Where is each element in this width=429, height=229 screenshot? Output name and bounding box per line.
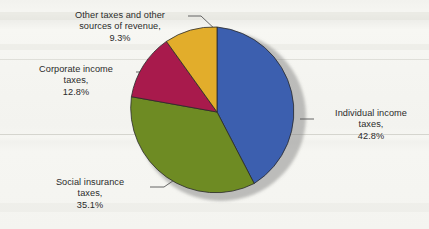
pie-slices [131, 27, 294, 193]
pie-label-individual-income-taxes: Individual income taxes, 42.8% [316, 108, 426, 142]
pie-label-corporate-income-taxes: Corporate income taxes, 12.8% [18, 64, 134, 98]
pie-label-other-taxes: Other taxes and other sources of revenue… [54, 10, 186, 44]
pie-label-social-insurance-taxes: Social insurance taxes, 35.1% [32, 177, 148, 211]
pie-chart: Other taxes and other sources of revenue… [0, 0, 429, 229]
chart-page: Other taxes and other sources of revenue… [0, 0, 429, 229]
